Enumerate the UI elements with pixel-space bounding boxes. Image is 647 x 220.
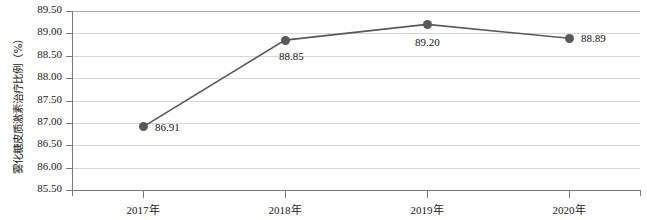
data-point-label: 88.89 <box>581 32 606 44</box>
gridline <box>72 33 640 34</box>
gridline <box>72 78 640 79</box>
x-axis-tick-label: 2019年 <box>392 201 462 217</box>
y-axis-tick-label: 88.50 <box>18 48 62 60</box>
y-axis-tick <box>66 78 72 79</box>
y-axis-tick <box>66 33 72 34</box>
y-axis-tick <box>66 145 72 146</box>
y-axis-tick-label: 85.50 <box>18 182 62 194</box>
plot-area <box>72 11 640 190</box>
y-axis-tick-label: 89.00 <box>18 25 62 37</box>
x-axis-right-cap <box>640 190 641 196</box>
gridline <box>72 168 640 169</box>
x-axis-tick <box>143 191 144 198</box>
y-axis-tick <box>66 190 72 191</box>
x-axis-tick-label: 2018年 <box>250 201 320 217</box>
y-axis-tick <box>66 56 72 57</box>
y-axis-tick-label: 87.50 <box>18 93 62 105</box>
line-chart: 雾化糖皮质激素治疗比例（%） 89.5089.0088.5088.0087.50… <box>0 0 647 220</box>
y-axis-tick-label: 86.50 <box>18 137 62 149</box>
gridline <box>72 101 640 102</box>
y-axis-tick <box>66 101 72 102</box>
y-axis-line <box>72 11 73 190</box>
y-axis-tick <box>66 11 72 12</box>
data-point-marker <box>139 122 148 131</box>
data-point-marker <box>423 20 432 29</box>
gridline <box>72 11 640 12</box>
x-axis-line <box>72 190 640 191</box>
gridline <box>72 56 640 57</box>
data-point-label: 89.20 <box>415 36 440 48</box>
y-axis-tick-label: 87.00 <box>18 115 62 127</box>
y-axis-tick-label: 88.00 <box>18 70 62 82</box>
data-point-label: 86.91 <box>155 121 180 133</box>
x-axis-tick <box>285 191 286 198</box>
y-axis-tick-label: 89.50 <box>18 3 62 15</box>
y-axis-tick-label: 86.00 <box>18 160 62 172</box>
data-point-label: 88.85 <box>279 50 304 62</box>
x-axis-left-cap <box>72 190 73 196</box>
data-point-marker <box>565 34 574 43</box>
data-point-marker <box>281 36 290 45</box>
x-axis-tick-label: 2017年 <box>108 201 178 217</box>
gridline <box>72 145 640 146</box>
y-axis-tick <box>66 168 72 169</box>
x-axis-tick-label: 2020年 <box>534 201 604 217</box>
y-axis-tick <box>66 123 72 124</box>
x-axis-tick <box>569 191 570 198</box>
x-axis-tick <box>427 191 428 198</box>
